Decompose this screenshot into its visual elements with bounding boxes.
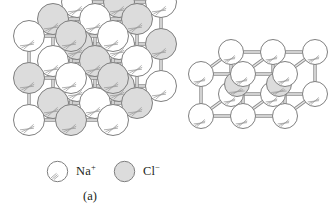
cation-sphere bbox=[14, 21, 45, 52]
anion-sphere bbox=[56, 21, 87, 52]
legend-label-na: Na+ bbox=[76, 164, 96, 179]
lattice-bonds bbox=[201, 52, 315, 116]
cl-ion-swatch-icon bbox=[113, 160, 136, 183]
cation-sphere bbox=[261, 40, 286, 65]
anion-sphere bbox=[14, 63, 45, 94]
cation-sphere bbox=[189, 62, 214, 87]
legend-item-cl-a: Cl− bbox=[113, 160, 160, 183]
lattice-atoms bbox=[14, 0, 177, 136]
cation-sphere bbox=[273, 104, 298, 129]
legend-item-na: Na+ bbox=[46, 160, 96, 183]
cation-sphere bbox=[98, 21, 129, 52]
caption-a: (a) bbox=[70, 189, 110, 204]
cation-sphere bbox=[98, 105, 129, 136]
cation-sphere bbox=[231, 104, 256, 129]
legend-label-cl-a: Cl− bbox=[143, 164, 160, 179]
cscl-lattice-diagram bbox=[184, 0, 334, 158]
anion-sphere bbox=[98, 63, 129, 94]
legend-nacl: Na+ Cl− bbox=[46, 160, 160, 183]
cation-sphere bbox=[303, 82, 328, 107]
panel-cscl: Cs+ Cl− (b) bbox=[184, 0, 334, 214]
cation-sphere bbox=[231, 62, 256, 87]
cation-sphere bbox=[189, 104, 214, 129]
cation-sphere bbox=[14, 105, 45, 136]
anion-sphere bbox=[56, 105, 87, 136]
na-ion-swatch-icon bbox=[46, 160, 69, 183]
cation-sphere bbox=[303, 40, 328, 65]
panel-nacl: Na+ Cl− (a) bbox=[0, 0, 184, 214]
cation-sphere bbox=[219, 40, 244, 65]
nacl-lattice-diagram bbox=[0, 0, 184, 158]
cation-sphere bbox=[56, 63, 87, 94]
cation-sphere bbox=[273, 62, 298, 87]
crystal-structure-figure: Na+ Cl− (a) bbox=[0, 0, 334, 214]
